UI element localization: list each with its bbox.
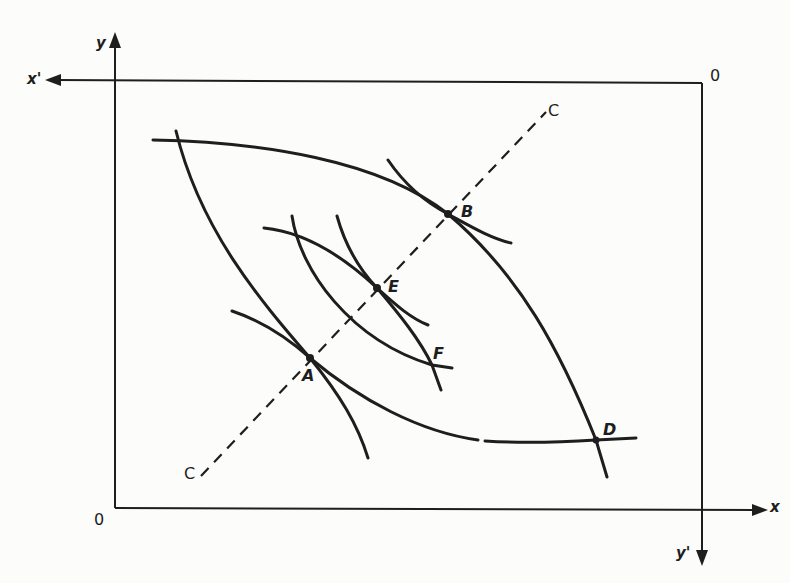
point-D-label: D bbox=[603, 422, 616, 438]
point-F-label: F bbox=[433, 346, 444, 362]
indifference-curve-through-B bbox=[388, 160, 511, 243]
point-E bbox=[373, 284, 381, 292]
contract-curve-label-bottom: C bbox=[184, 466, 195, 482]
point-E-label: E bbox=[388, 279, 399, 295]
contract-curve-dashed-line bbox=[201, 112, 546, 476]
contract-curve-label-top: C bbox=[548, 103, 559, 119]
x-prime-axis-arrow-icon bbox=[45, 74, 61, 86]
y-prime-axis-arrow-icon bbox=[696, 550, 708, 566]
point-A bbox=[306, 354, 314, 362]
x-axis-arrow-icon bbox=[752, 504, 768, 516]
point-D bbox=[593, 437, 600, 444]
x-prime-axis-label: x' bbox=[27, 72, 41, 87]
origin-top-right-label: 0 bbox=[710, 68, 720, 84]
point-A-label: A bbox=[302, 368, 314, 384]
x-axis-line bbox=[115, 508, 758, 510]
indifference-curve-bottom-through-A-D bbox=[232, 311, 636, 443]
x-axis-label: x bbox=[770, 500, 780, 515]
y-prime-axis-label: y' bbox=[676, 546, 690, 561]
origin-bottom-left-label: 0 bbox=[94, 512, 104, 528]
point-B-label: B bbox=[461, 204, 473, 220]
indifference-curve-top-through-B-D bbox=[153, 140, 607, 477]
indifference-curve-steep-left-through-A bbox=[176, 131, 368, 458]
box-frame bbox=[45, 32, 768, 566]
indifference-curve-inner-through-F bbox=[292, 216, 452, 368]
point-B bbox=[444, 210, 452, 218]
x-prime-axis-line bbox=[56, 80, 702, 83]
y-axis-label: y bbox=[96, 36, 106, 51]
y-axis-arrow-icon bbox=[109, 32, 121, 48]
